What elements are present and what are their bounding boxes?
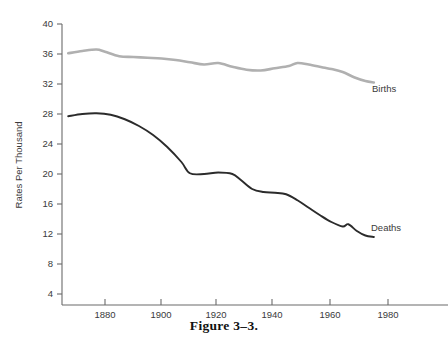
y-tick-label-24: 24 xyxy=(42,138,53,149)
y-tick-label-40: 40 xyxy=(42,18,53,29)
y-axis-ticks: 481216202428323640 xyxy=(42,18,62,299)
series-labels: BirthsDeaths xyxy=(371,83,401,233)
y-tick-label-28: 28 xyxy=(42,108,53,119)
y-axis-title: Rates Per Thousand xyxy=(13,122,24,209)
series-line-deaths xyxy=(68,113,374,237)
y-tick-label-36: 36 xyxy=(42,48,53,59)
series-group xyxy=(68,49,374,237)
y-tick-label-4: 4 xyxy=(48,288,53,299)
figure-caption: Figure 3–3. xyxy=(0,318,448,334)
y-tick-label-16: 16 xyxy=(42,198,53,209)
series-line-births xyxy=(68,49,374,82)
series-label-births: Births xyxy=(372,83,397,94)
x-axis-ticks: 188019001920194019601980 xyxy=(94,299,398,320)
figure-container: 481216202428323640 188019001920194019601… xyxy=(0,0,448,352)
y-tick-label-12: 12 xyxy=(42,228,53,239)
y-tick-label-8: 8 xyxy=(48,258,53,269)
line-chart: 481216202428323640 188019001920194019601… xyxy=(0,0,448,352)
y-tick-label-20: 20 xyxy=(42,168,53,179)
y-tick-label-32: 32 xyxy=(42,78,53,89)
series-label-deaths: Deaths xyxy=(371,222,401,233)
